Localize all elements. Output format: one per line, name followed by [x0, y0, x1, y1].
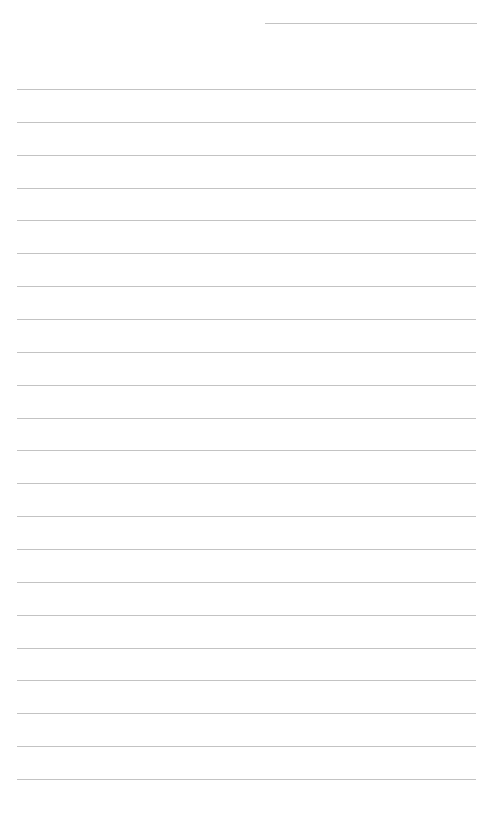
ruled-line [17, 549, 476, 550]
ruled-line [17, 680, 476, 681]
ruled-line [17, 253, 476, 254]
ruled-line [17, 582, 476, 583]
ruled-line [17, 220, 476, 221]
ruled-line [17, 450, 476, 451]
ruled-line [17, 188, 476, 189]
ruled-line [17, 286, 476, 287]
ruled-line [17, 713, 476, 714]
ruled-line [17, 779, 476, 780]
header-line [265, 23, 477, 24]
ruled-line [17, 385, 476, 386]
ruled-line [17, 155, 476, 156]
ruled-line [17, 352, 476, 353]
ruled-line [17, 319, 476, 320]
ruled-line [17, 89, 476, 90]
ruled-line [17, 615, 476, 616]
ruled-line [17, 746, 476, 747]
ruled-line [17, 418, 476, 419]
ruled-line [17, 483, 476, 484]
ruled-line [17, 122, 476, 123]
ruled-line [17, 648, 476, 649]
ruled-line [17, 516, 476, 517]
